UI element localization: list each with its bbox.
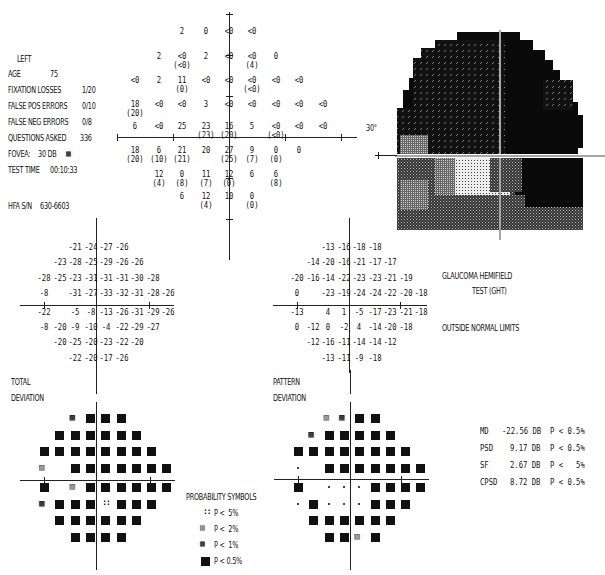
p1-dense-hatch-icon: ▩ xyxy=(308,430,313,439)
p05-solid-square-icon xyxy=(40,483,49,492)
eye-label: LEFT xyxy=(17,55,31,64)
threshold-value: <0 xyxy=(149,122,168,131)
threshold-cell: 9(7) xyxy=(243,146,262,163)
threshold-cell: 16(20) xyxy=(220,122,239,139)
p05-solid-square-icon xyxy=(71,516,80,525)
p05-solid-square-icon xyxy=(355,431,364,440)
threshold-repeat-value: (8) xyxy=(173,179,192,188)
p05-solid-square-icon xyxy=(55,447,64,456)
md-value: -22.56 DB xyxy=(502,426,541,436)
threshold-cell: <0 xyxy=(313,100,332,109)
threshold-repeat-value: (0) xyxy=(243,201,262,210)
deviation-value: -22 xyxy=(35,308,54,317)
p1-dense-hatch-icon: ▩ xyxy=(339,413,344,422)
normal-point-dot xyxy=(358,503,360,505)
p05-solid-square-icon xyxy=(355,447,364,456)
p05-solid-square-icon xyxy=(132,464,141,473)
sf-name: SF xyxy=(480,460,489,470)
deviation-value: -20 xyxy=(128,338,147,347)
threshold-cell: <0 xyxy=(220,52,239,61)
p05-solid-square-icon xyxy=(101,483,110,492)
p05-solid-square-icon xyxy=(401,500,410,509)
threshold-cell: 11(7) xyxy=(196,170,215,187)
p05-solid-square-icon xyxy=(340,516,349,525)
threshold-cell: 10 xyxy=(220,192,239,201)
solid-square-icon xyxy=(201,557,210,566)
p05-solid-square-icon xyxy=(401,464,410,473)
hfa-sn-label: HFA S/N xyxy=(8,202,32,211)
p05-solid-square-icon xyxy=(101,516,110,525)
p05-solid-square-icon xyxy=(371,500,380,509)
p05-solid-square-icon xyxy=(386,431,395,440)
psd-name: PSD xyxy=(480,443,493,453)
p05-solid-square-icon xyxy=(371,431,380,440)
threshold-cell: <0(<0) xyxy=(266,122,285,139)
threshold-cell: 11(0) xyxy=(173,76,192,93)
p05-solid-square-icon xyxy=(325,447,334,456)
threshold-value: 0 xyxy=(196,27,215,36)
pdp-vertical-axis-top xyxy=(350,370,351,394)
legend-label-2pct: P < 2% xyxy=(214,525,238,534)
p05-solid-square-icon xyxy=(371,516,380,525)
threshold-cell: <0 xyxy=(243,100,262,109)
threshold-value: <0 xyxy=(220,100,239,109)
threshold-repeat-value: (25) xyxy=(220,155,239,164)
test-time-label: TEST TIME xyxy=(8,166,40,175)
p05-solid-square-icon xyxy=(101,414,110,423)
p05-solid-square-icon xyxy=(117,464,126,473)
psd-p: P < 0.5% xyxy=(550,443,585,453)
threshold-cell: 25 xyxy=(173,122,192,131)
p2-sparse-hatch-icon: ▨ xyxy=(354,532,359,541)
deviation-value: -26 xyxy=(128,258,147,267)
false-neg-label: FALSE NEG ERRORS xyxy=(8,118,68,127)
ght-title-line1: GLAUCOMA HEMIFIELD xyxy=(442,272,512,281)
threshold-cell: 0(0) xyxy=(243,192,262,209)
threshold-cell: 6(8) xyxy=(266,170,285,187)
p05-solid-square-icon xyxy=(309,516,318,525)
fixation-losses-value: 1/20 xyxy=(82,86,96,95)
threshold-value: 25 xyxy=(173,122,192,131)
p05-solid-square-icon xyxy=(132,516,141,525)
deviation-value: -26 xyxy=(112,354,131,363)
threshold-value: <0 xyxy=(220,52,239,61)
p05-solid-square-icon xyxy=(340,464,349,473)
p05-solid-square-icon xyxy=(86,500,95,509)
threshold-cell: <0 xyxy=(290,122,309,131)
questions-asked-value: 336 xyxy=(80,134,92,143)
p05-solid-square-icon xyxy=(117,533,126,542)
p05-solid-square-icon xyxy=(371,447,380,456)
threshold-cell: 2 xyxy=(149,76,168,85)
p05-solid-square-icon xyxy=(386,483,395,492)
threshold-value: <0 xyxy=(243,27,262,36)
threshold-cell: 0 xyxy=(290,146,309,155)
threshold-cell: <0 xyxy=(149,100,168,109)
threshold-cell: 6 xyxy=(173,192,192,201)
p05-solid-square-icon xyxy=(101,533,110,542)
p1-dense-hatch-icon: ▩ xyxy=(39,499,44,508)
p05-solid-square-icon xyxy=(340,447,349,456)
cpsd-p: P < 0.5% xyxy=(550,477,585,487)
threshold-value: 6 xyxy=(173,192,192,201)
p05-solid-square-icon xyxy=(147,483,156,492)
p05-solid-square-icon xyxy=(325,464,334,473)
dots-icon: :: xyxy=(203,508,211,516)
p5-dots-icon: :: xyxy=(102,499,110,507)
cpsd-name: CPSD xyxy=(480,477,497,487)
threshold-cell: 23(23) xyxy=(196,122,215,139)
normal-point-dot xyxy=(297,503,299,505)
threshold-value: 20 xyxy=(196,146,215,155)
p05-solid-square-icon xyxy=(162,483,171,492)
normal-point-dot xyxy=(343,486,345,488)
threshold-repeat-value: (7) xyxy=(243,155,262,164)
false-pos-label: FALSE POS ERRORS xyxy=(8,102,67,111)
p05-solid-square-icon xyxy=(340,533,349,542)
threshold-cell: 3 xyxy=(196,100,215,109)
threshold-cell: <0 xyxy=(220,27,239,36)
p05-solid-square-icon xyxy=(325,431,334,440)
threshold-value: 6 xyxy=(243,170,262,179)
fovea-value: 30 DB xyxy=(38,150,57,159)
dense-hatch-icon: ▩ xyxy=(200,540,205,548)
tick xyxy=(117,134,118,141)
threshold-cell: 5 xyxy=(243,122,262,131)
threshold-repeat-value: (20) xyxy=(126,109,145,118)
